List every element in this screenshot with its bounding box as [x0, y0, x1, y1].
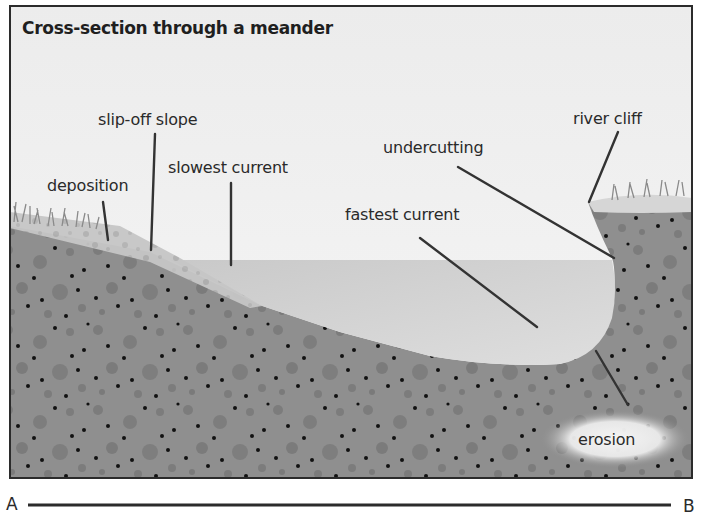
label-slip-off-slope: slip-off slope — [98, 110, 197, 129]
label-fastest-current: fastest current — [345, 205, 459, 224]
label-erosion: erosion — [578, 430, 635, 449]
label-river-cliff: river cliff — [573, 109, 642, 128]
section-label-b: B — [683, 496, 695, 513]
label-deposition: deposition — [47, 176, 128, 195]
label-undercutting: undercutting — [383, 138, 483, 157]
label-slowest-current: slowest current — [168, 158, 288, 177]
section-label-a: A — [6, 494, 18, 513]
diagram-title: Cross-section through a meander — [22, 18, 333, 38]
